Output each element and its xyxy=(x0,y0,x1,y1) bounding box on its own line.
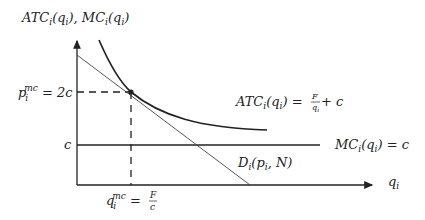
y-axis-label: ATCi(qi), MCi(qi) xyxy=(21,10,129,27)
demand-curve xyxy=(77,55,250,185)
atc-plus-c: + c xyxy=(321,94,344,109)
x-axis-label: qi xyxy=(388,174,399,191)
tangency-point xyxy=(128,89,133,94)
c-label: c xyxy=(64,137,72,152)
quantity-fraction-num: F xyxy=(149,190,157,200)
mc-label: MCi(qi) = c xyxy=(334,137,410,154)
quantity-fraction-den: c xyxy=(150,202,155,212)
price-label: pimc = 2c xyxy=(18,83,73,103)
quantity-label: qimc = xyxy=(106,191,141,211)
diagram: ATCi(qi), MCi(qi) pimc = 2c c qimc = F c… xyxy=(0,0,425,220)
atc-curve xyxy=(99,40,267,130)
atc-label: ATCi(qi) = xyxy=(235,94,303,111)
atc-fraction-num: F xyxy=(311,92,318,101)
demand-label: Di(pi, N) xyxy=(237,155,292,172)
atc-fraction-den: qi xyxy=(312,103,319,113)
